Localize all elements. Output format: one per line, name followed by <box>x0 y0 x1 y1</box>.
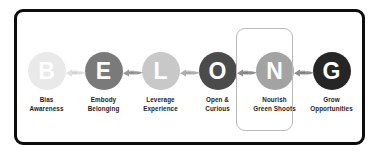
step-leverage-experience[interactable]: L Leverage Experience <box>132 52 189 122</box>
step-grow-opportunities[interactable]: G Grow Opportunities <box>303 52 360 122</box>
hand-pointing-icon <box>122 66 144 79</box>
belong-framework-diagram: B Bias Awareness E Embody Belonging L Le… <box>0 0 381 155</box>
step-letter-circle-o[interactable]: O <box>199 52 237 90</box>
step-bias-awareness[interactable]: B Bias Awareness <box>18 52 75 122</box>
step-letter-circle-e[interactable]: E <box>85 52 123 90</box>
step-letter-circle-b[interactable]: B <box>28 52 66 90</box>
hand-pointing-icon <box>179 66 201 79</box>
hand-pointing-icon <box>65 66 87 79</box>
steps-row: B Bias Awareness E Embody Belonging L Le… <box>18 52 361 122</box>
nourish-green-shoots-highlight[interactable] <box>236 28 293 131</box>
hand-pointing-icon <box>293 66 315 79</box>
step-caption-grow-opportunities: Grow Opportunities <box>296 95 368 113</box>
step-letter-circle-g[interactable]: G <box>313 52 351 90</box>
step-embody-belonging[interactable]: E Embody Belonging <box>75 52 132 122</box>
step-letter-circle-l[interactable]: L <box>142 52 180 90</box>
